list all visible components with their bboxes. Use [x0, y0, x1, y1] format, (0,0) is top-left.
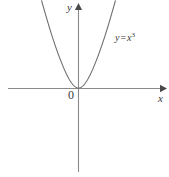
plot-canvas	[0, 0, 169, 177]
cubic-function-figure: y x 0 y=x3	[0, 0, 169, 177]
y-axis-arrow-icon	[75, 3, 82, 10]
curve-equation-exponent: 3	[132, 31, 136, 39]
x-axis-label: x	[158, 93, 163, 104]
curve-equation-label: y=x3	[115, 33, 135, 43]
curve-equation-lhs: y	[115, 32, 119, 43]
y-axis-label: y	[67, 2, 72, 13]
origin-label: 0	[68, 89, 74, 101]
curve-equation-operator: =	[120, 32, 126, 43]
